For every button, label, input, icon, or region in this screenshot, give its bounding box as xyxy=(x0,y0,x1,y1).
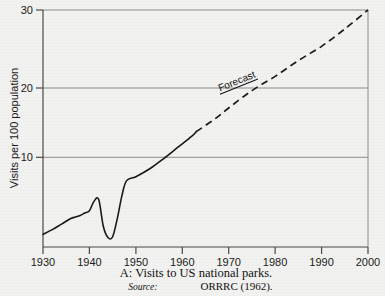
y-tick-label-10: 10 xyxy=(21,151,33,163)
y-axis-title: Visits per 100 population xyxy=(8,68,20,188)
y-tick-label-20: 20 xyxy=(21,82,33,94)
y-tick-label-30: 30 xyxy=(21,4,33,16)
figure-container: 30 20 10 1930 1940 1950 1960 1970 1980 1… xyxy=(0,0,385,296)
caption: A: Visits to US national parks. Source: … xyxy=(88,266,303,293)
x-tick-label-1940: 1940 xyxy=(77,256,101,268)
chart-svg: 30 20 10 1930 1940 1950 1960 1970 1980 1… xyxy=(0,0,385,296)
x-tick-label-1930: 1930 xyxy=(31,256,55,268)
x-tick-label-1990: 1990 xyxy=(309,256,333,268)
caption-source-label: Source: xyxy=(128,282,157,292)
chart-background xyxy=(0,0,385,296)
caption-source-value: ORRRC (1962). xyxy=(200,280,272,293)
x-tick-label-2000: 2000 xyxy=(356,256,380,268)
